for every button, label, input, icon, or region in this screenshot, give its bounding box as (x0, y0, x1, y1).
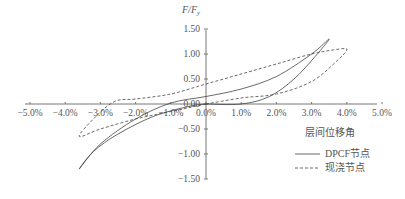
hysteresis-chart: −5.0%−4.0%−3.0%−2.0%−1.0%0.0%1.0%2.0%3.0… (0, 0, 405, 199)
x-tick-label: −2.0% (123, 108, 148, 118)
y-tick-label: 1.00 (183, 49, 200, 59)
x-tick-label: 3.0% (302, 108, 322, 118)
y-axis-title: F/Fy (181, 4, 201, 17)
y-tick-label: −1.50 (178, 174, 200, 184)
y-tick-label: −0.50 (178, 124, 200, 134)
legend: DPCF节点 现浇节点 (295, 148, 370, 173)
x-tick-label: −5.0% (17, 108, 42, 118)
series-cast-in-place-line (79, 48, 347, 136)
x-tick-label: 2.0% (267, 108, 287, 118)
x-tick-label: −3.0% (88, 108, 113, 118)
x-tick-label: 4.0% (337, 108, 357, 118)
legend-label-dpcf: DPCF节点 (325, 148, 370, 159)
legend-label-cast-in-place: 现浇节点 (325, 161, 365, 173)
x-tick-label: 1.0% (231, 108, 251, 118)
x-tick-label: −4.0% (53, 108, 78, 118)
y-tick-label: 1.50 (183, 24, 200, 34)
y-tick-label: 0.50 (183, 74, 200, 84)
y-tick-label: −1.00 (178, 149, 200, 159)
x-tick-label: 5.0% (372, 108, 392, 118)
x-axis-title: 层间位移角 (305, 126, 355, 138)
